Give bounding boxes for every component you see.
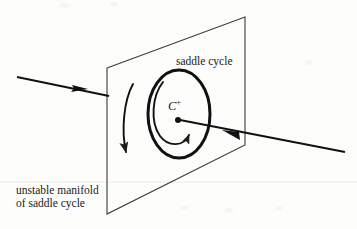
saddle-cycle-label: saddle cycle: [176, 55, 233, 68]
equilibrium-point-label: C+: [168, 99, 181, 113]
saddle-cycle-diagram: saddle cycle unstable manifold of saddle…: [0, 0, 357, 229]
cross-section-plane: [107, 17, 245, 214]
unstable-manifold-label-line2: of saddle cycle: [16, 197, 99, 210]
saddle-cycle-point: [175, 117, 181, 123]
inward-spiral-trajectory: [154, 82, 189, 144]
rotation-direction-arrow: [124, 84, 133, 152]
unstable-manifold-label: unstable manifold of saddle cycle: [16, 184, 99, 210]
unstable-manifold-label-line1: unstable manifold: [16, 184, 99, 196]
saddle-cycle-ellipse: [148, 70, 210, 158]
equilibrium-point-superscript: +: [176, 98, 181, 107]
incoming-manifold-line-left: [17, 77, 109, 96]
